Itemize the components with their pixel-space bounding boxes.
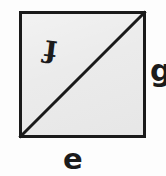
diagonal-stroke	[21, 13, 145, 137]
label-g: g	[150, 56, 166, 86]
label-e: e	[63, 145, 83, 174]
diagonal-line	[19, 11, 146, 138]
figure-canvas: f g e	[0, 0, 166, 176]
